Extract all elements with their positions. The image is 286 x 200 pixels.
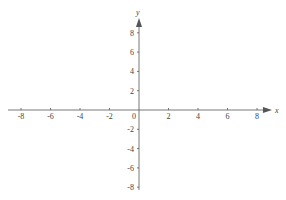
y-tick-label: -4 <box>127 145 134 154</box>
x-tick-label: 0 <box>132 112 136 121</box>
y-tick-label: 4 <box>130 67 134 76</box>
coordinate-plane: x y -8-6-4-202468 -8-6-4-22468 <box>0 0 286 200</box>
x-tick-label: -8 <box>18 112 25 121</box>
y-tick-label: -8 <box>127 183 134 192</box>
x-tick-label: -4 <box>77 112 84 121</box>
y-tick-label: 6 <box>130 48 134 57</box>
y-tick-label: -2 <box>127 125 134 134</box>
x-tick-label: 2 <box>167 112 171 121</box>
y-tick-label: 2 <box>130 87 134 96</box>
x-tick-label: -6 <box>47 112 54 121</box>
y-tick-label: -6 <box>127 164 134 173</box>
y-ticks: -8-6-4-22468 <box>127 29 139 192</box>
axes <box>8 24 266 190</box>
x-tick-label: 6 <box>226 112 230 121</box>
x-axis-arrow-icon <box>263 107 272 113</box>
y-axis-arrow-icon <box>136 18 142 27</box>
y-axis-label: y <box>135 8 140 17</box>
x-tick-label: -2 <box>106 112 113 121</box>
x-axis-label: x <box>274 106 279 115</box>
x-tick-label: 8 <box>255 112 259 121</box>
y-tick-label: 8 <box>130 29 134 38</box>
x-tick-label: 4 <box>196 112 200 121</box>
